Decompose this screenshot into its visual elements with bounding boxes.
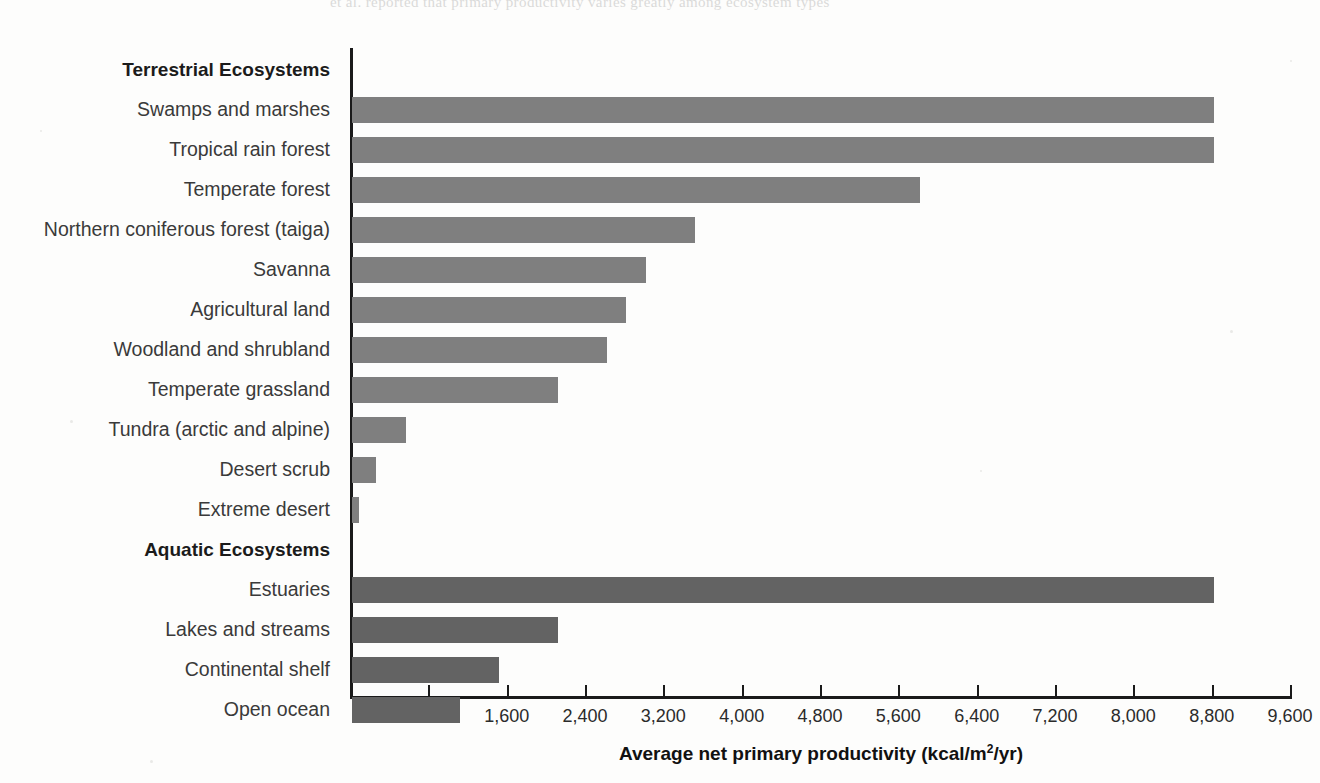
bar bbox=[352, 377, 558, 403]
bar bbox=[352, 217, 695, 243]
bar bbox=[352, 177, 920, 203]
category-label: Continental shelf bbox=[185, 660, 330, 680]
x-axis-tick bbox=[1133, 685, 1135, 697]
x-axis-tick bbox=[820, 685, 822, 697]
bar bbox=[352, 337, 607, 363]
x-axis-tick bbox=[507, 685, 509, 697]
x-axis-tick bbox=[1290, 685, 1292, 697]
category-label: Estuaries bbox=[249, 580, 330, 600]
category-label: Swamps and marshes bbox=[137, 100, 330, 120]
category-label: Temperate forest bbox=[184, 180, 330, 200]
x-axis-tick-label: 3,200 bbox=[641, 706, 686, 727]
category-label: Temperate grassland bbox=[148, 380, 330, 400]
bar bbox=[352, 417, 406, 443]
bar bbox=[352, 137, 1214, 163]
x-axis-tick-label: 9,600 bbox=[1267, 706, 1312, 727]
x-axis-tick bbox=[898, 685, 900, 697]
x-axis-tick bbox=[1212, 685, 1214, 697]
bar bbox=[352, 457, 376, 483]
bar bbox=[352, 97, 1214, 123]
plot-area: 8001,6002,4003,2004,0004,8005,6006,4007,… bbox=[350, 30, 1295, 695]
category-label: Tundra (arctic and alpine) bbox=[109, 420, 330, 440]
bar bbox=[352, 297, 626, 323]
section-heading: Aquatic Ecosystems bbox=[144, 540, 330, 559]
x-axis-tick-label: 8,800 bbox=[1189, 706, 1234, 727]
x-axis-tick-label: 8,000 bbox=[1111, 706, 1156, 727]
x-axis-title-after: /yr) bbox=[993, 743, 1023, 764]
x-axis-tick-label: 7,200 bbox=[1032, 706, 1077, 727]
x-axis-tick-label: 2,400 bbox=[562, 706, 607, 727]
section-heading: Terrestrial Ecosystems bbox=[122, 60, 330, 79]
page-bleed-text: et al. reported that primary productivit… bbox=[330, 0, 1030, 12]
category-label: Northern coniferous forest (taiga) bbox=[44, 220, 330, 240]
bar bbox=[352, 657, 499, 683]
bar bbox=[352, 697, 460, 723]
x-axis-title-before: Average net primary productivity (kcal/m bbox=[619, 743, 987, 764]
category-label: Open ocean bbox=[224, 700, 330, 720]
x-axis-tick bbox=[585, 685, 587, 697]
x-axis-tick-label: 1,600 bbox=[484, 706, 529, 727]
x-axis-tick bbox=[428, 685, 430, 697]
category-label: Woodland and shrubland bbox=[114, 340, 330, 360]
category-label: Savanna bbox=[253, 260, 330, 280]
bar bbox=[352, 257, 646, 283]
bar bbox=[352, 497, 359, 523]
x-axis-tick-label: 6,400 bbox=[954, 706, 999, 727]
category-label: Lakes and streams bbox=[165, 620, 330, 640]
category-label: Tropical rain forest bbox=[169, 140, 330, 160]
x-axis-tick-label: 5,600 bbox=[876, 706, 921, 727]
x-axis-title: Average net primary productivity (kcal/m… bbox=[350, 742, 1292, 765]
category-label: Agricultural land bbox=[190, 300, 330, 320]
x-axis-tick bbox=[742, 685, 744, 697]
category-label: Extreme desert bbox=[198, 500, 330, 520]
x-axis-tick bbox=[1055, 685, 1057, 697]
bar bbox=[352, 617, 558, 643]
x-axis-tick bbox=[663, 685, 665, 697]
x-axis-tick bbox=[977, 685, 979, 697]
paper-speck bbox=[70, 420, 73, 423]
x-axis-tick-label: 4,800 bbox=[797, 706, 842, 727]
category-label: Desert scrub bbox=[219, 460, 330, 480]
bar bbox=[352, 577, 1214, 603]
productivity-bar-chart-figure: et al. reported that primary productivit… bbox=[0, 0, 1320, 783]
paper-speck bbox=[150, 760, 153, 763]
paper-speck bbox=[40, 130, 42, 132]
x-axis-tick-label: 4,000 bbox=[719, 706, 764, 727]
